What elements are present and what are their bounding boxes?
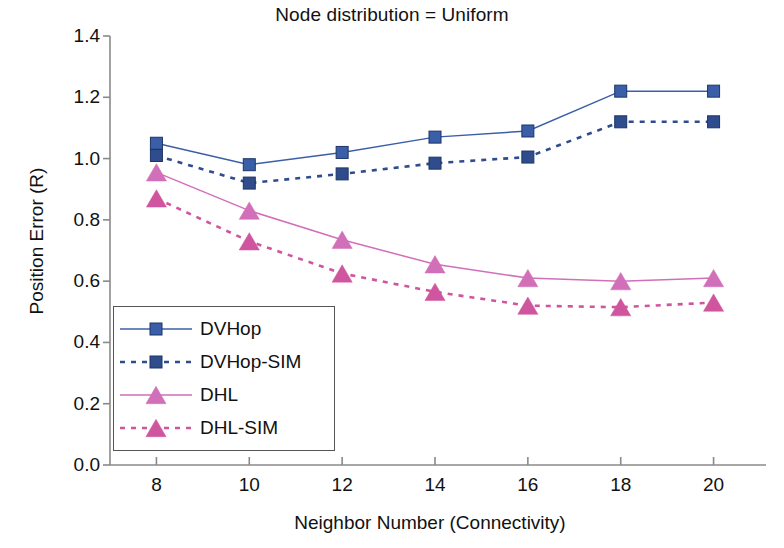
- legend-marker: [146, 419, 166, 436]
- data-point-marker: [522, 151, 534, 163]
- legend-item-dvhop[interactable]: DVHop: [114, 313, 336, 345]
- data-point-marker: [239, 202, 259, 219]
- legend-label: DVHop: [200, 318, 261, 340]
- chart-legend: DVHopDVHop-SIMDHLDHL-SIM: [113, 306, 335, 451]
- data-point-marker: [615, 116, 627, 128]
- legend-swatch: [114, 314, 198, 344]
- data-point-marker: [708, 116, 720, 128]
- data-point-marker: [332, 265, 352, 282]
- legend-item-dvhop-sim[interactable]: DVHop-SIM: [114, 346, 336, 378]
- legend-label: DVHop-SIM: [200, 351, 301, 373]
- legend-item-dhl-sim[interactable]: DHL-SIM: [114, 412, 336, 444]
- legend-marker: [150, 356, 162, 368]
- series-dvhop-sim: [150, 116, 719, 189]
- legend-label: DHL: [200, 384, 238, 406]
- legend-swatch: [114, 347, 198, 377]
- data-point-marker: [425, 283, 445, 300]
- data-point-marker: [703, 294, 723, 311]
- series-dhl: [146, 164, 723, 290]
- chart-container: Node distribution = Uniform Position Err…: [0, 0, 784, 548]
- data-point-marker: [429, 131, 441, 143]
- data-point-marker: [336, 146, 348, 158]
- data-point-marker: [336, 168, 348, 180]
- data-point-marker: [615, 85, 627, 97]
- data-point-marker: [150, 150, 162, 162]
- data-point-marker: [146, 190, 166, 207]
- data-point-marker: [150, 137, 162, 149]
- data-point-marker: [239, 233, 259, 250]
- data-point-marker: [429, 157, 441, 169]
- series-dhl-sim: [146, 190, 723, 316]
- legend-item-dhl[interactable]: DHL: [114, 379, 336, 411]
- data-point-marker: [708, 85, 720, 97]
- data-point-marker: [146, 164, 166, 181]
- legend-swatch: [114, 380, 198, 410]
- legend-marker: [150, 323, 162, 335]
- series-line: [156, 91, 713, 165]
- legend-label: DHL-SIM: [200, 417, 278, 439]
- data-point-marker: [243, 177, 255, 189]
- legend-swatch: [114, 413, 198, 443]
- data-point-marker: [332, 231, 352, 248]
- data-point-marker: [425, 256, 445, 273]
- data-point-marker: [522, 125, 534, 137]
- data-point-marker: [243, 159, 255, 171]
- plot-area: [0, 0, 784, 548]
